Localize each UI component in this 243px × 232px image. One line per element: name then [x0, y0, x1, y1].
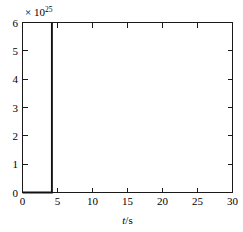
y-tick-label: 6 [13, 17, 19, 29]
y-axis-exponent-power: 25 [45, 5, 53, 14]
y-axis-tick-labels: 0 1 2 3 4 5 6 [13, 17, 19, 199]
x-axis-title: t/s [122, 214, 132, 226]
y-axis-exponent-label: × 1025 [25, 5, 53, 19]
x-tick-label: 30 [227, 195, 239, 207]
chart-figure: 0 1 2 3 4 5 6 0 5 10 15 20 25 30 × 1025 … [0, 0, 243, 232]
x-axis-ticks-top [23, 23, 233, 28]
x-axis-title-unit: /s [125, 214, 132, 226]
plot-canvas: 0 1 2 3 4 5 6 0 5 10 15 20 25 30 × 1025 … [0, 0, 243, 232]
y-axis-ticks-left [23, 23, 28, 193]
x-axis-ticks-bottom [23, 188, 233, 193]
y-tick-label: 5 [13, 45, 19, 57]
x-axis-tick-labels: 0 5 10 15 20 25 30 [20, 195, 239, 207]
x-tick-label: 0 [20, 195, 26, 207]
x-tick-label: 20 [157, 195, 169, 207]
x-tick-label: 10 [87, 195, 99, 207]
plot-box [23, 23, 233, 193]
y-tick-label: 2 [13, 130, 19, 142]
y-tick-label: 4 [13, 73, 19, 85]
y-tick-label: 1 [13, 158, 19, 170]
x-tick-label: 5 [55, 195, 61, 207]
y-tick-label: 0 [13, 187, 19, 199]
x-tick-label: 25 [192, 195, 204, 207]
y-axis-ticks-right [228, 23, 233, 193]
y-tick-label: 3 [13, 102, 19, 114]
x-tick-label: 15 [122, 195, 134, 207]
y-axis-exponent-base: × 10 [25, 6, 45, 18]
